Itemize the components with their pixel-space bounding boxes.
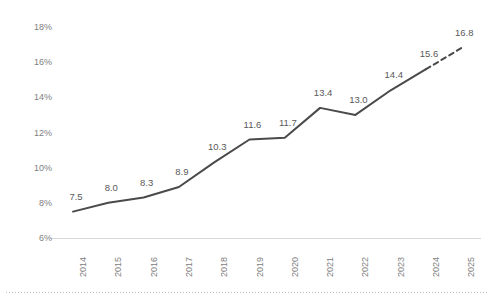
data-point-label: 10.3: [208, 141, 227, 152]
data-point-label: 14.4: [384, 69, 403, 80]
data-point-label: 15.6: [420, 48, 439, 59]
data-point-label: 8.3: [140, 177, 153, 188]
data-point-label: 7.5: [69, 191, 82, 202]
data-point-label: 16.8: [455, 27, 474, 38]
data-point-label: 8.0: [105, 182, 118, 193]
data-point-label: 13.4: [314, 87, 333, 98]
data-label-layer: 7.58.08.38.910.311.611.713.413.014.415.6…: [0, 0, 493, 301]
data-point-label: 11.6: [244, 119, 262, 130]
data-point-label: 13.0: [349, 94, 368, 105]
data-point-label: 8.9: [175, 166, 188, 177]
line-chart: 6%8%10%12%14%16%18% 20142015201620172018…: [0, 0, 493, 301]
data-point-label: 11.7: [279, 117, 297, 128]
